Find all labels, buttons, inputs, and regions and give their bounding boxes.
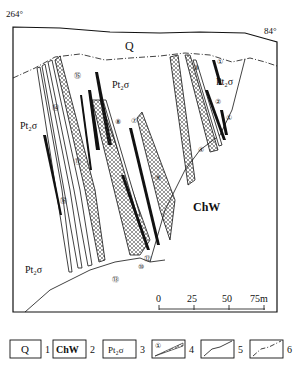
legend-item-unconformity: 6 [250,340,292,358]
legend-item-boundary: 5 [201,340,243,358]
legend-item-pt2o: Pt₂σ 3 [103,340,145,358]
orebody-number: ② [215,98,221,106]
scale-label-25: 25 [187,293,197,304]
orebody-number: ⑪ [74,158,81,166]
orebody-number: ⑦ [131,117,137,125]
legend-item-chw: ChW 2 [53,340,95,358]
unit-label-pt2o-bottom: Pt₂σ [25,264,43,275]
unit-label-pt2o-right: Pt₂σ [216,76,234,87]
geological-map: 264° 84° Q Pt₂σ Pt₂σ Pt₂σ Pt₂σ [0,0,296,371]
orebody-number: ⑧ [115,118,121,126]
unit-label-chw: ChW [193,200,220,214]
unit-label-q: Q [125,39,134,53]
orebody-number: ⑩ [138,263,144,271]
lower-contact-line [25,258,165,312]
legend-number: 3 [140,344,145,355]
orebody-number: ⑮ [74,72,81,80]
right-azimuth-label: 84° [264,26,277,36]
legend-item-orebody: ① 4 [152,340,194,358]
scale-bar: 0 25 50 75m [156,293,268,310]
orebody-number: ⑯ [60,197,67,205]
legend-number: 4 [189,344,194,355]
orebody-number: ③ [193,64,199,72]
legend-number: 2 [90,344,95,355]
scale-label-0: 0 [156,293,161,304]
unit-label-pt2o-top: Pt₂σ [112,79,130,90]
legend-number: 1 [45,344,50,355]
legend-number: 6 [287,344,292,355]
scale-label-75m: 75m [250,293,268,304]
orebody-polygon [185,55,218,152]
orebody-swarm-right [170,55,228,185]
left-azimuth-label: 264° [6,9,24,19]
orebody-polygon [42,64,82,268]
orebody-number: ① [217,58,223,66]
legend-symbol: ChW [56,344,79,355]
orebody-number: ⑬ [112,276,119,284]
legend-symbol: ① [155,342,161,350]
unit-label-pt2o-left: Pt₂σ [20,120,38,131]
legend-number: 5 [238,344,243,355]
orebody-number: ⑨ [155,174,161,182]
legend-symbol: Q [21,343,29,355]
scale-label-50: 50 [222,293,232,304]
orebody-number: ④ [198,146,204,154]
orebody-number: ⑭ [52,104,59,112]
legend-symbol: Pt₂σ [108,345,124,355]
legend-item-q: Q 1 [10,340,50,358]
orebody-number: ① [226,114,232,122]
orebody-number: ⑫ [144,255,151,263]
legend: Q 1 ChW 2 Pt₂σ 3 ① 4 5 6 [10,340,292,358]
